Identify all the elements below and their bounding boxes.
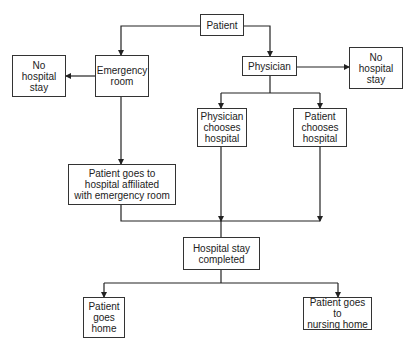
node-patient-goes-home: Patient goes home: [83, 297, 125, 338]
node-patient-goes-affiliated-hospital: Patient goes to hospital affiliated with…: [68, 164, 176, 205]
node-patient-goes-nursing-home: Patient goes to nursing home: [303, 297, 372, 330]
node-patient: Patient: [200, 14, 244, 36]
node-patient-chooses-hospital: Patient chooses hospital: [293, 108, 347, 147]
edge-patient-physician: [244, 26, 270, 56]
node-emergency-room: Emergency room: [95, 55, 149, 97]
node-no-hospital-stay-right: No hospital stay: [349, 47, 403, 89]
node-physician-chooses-hospital: Physician chooses hospital: [197, 108, 247, 147]
edge-affiliated-merge: [121, 204, 221, 221]
edge-patient-emergency: [121, 26, 200, 55]
node-physician: Physician: [242, 56, 297, 76]
node-no-hospital-stay-left: No hospital stay: [12, 55, 66, 97]
node-hospital-stay-completed: Hospital stay completed: [183, 237, 260, 270]
